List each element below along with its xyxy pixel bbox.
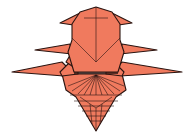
diagram-canvas <box>0 0 183 134</box>
origami-diagram <box>0 0 183 134</box>
lower-body <box>62 74 126 131</box>
head-body <box>68 7 124 73</box>
